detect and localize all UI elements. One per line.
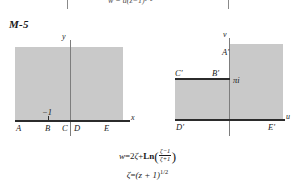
rule-tick-left — [67, 0, 68, 9]
w-plane-point-B-prime: B′ — [212, 69, 219, 78]
z-plane-minus-one-label: −1 — [42, 107, 52, 117]
w-plane-point-D-prime: D′ — [176, 123, 184, 132]
mapping-formulas: w=2ζ+Ln(ζ−1ζ+1) ζ=(z + 1)1/2 — [0, 148, 295, 182]
z-plane-y-axis-label: y — [62, 33, 66, 41]
conformal-mapping-figure: w = a(z−1)¹ᐟ² M-5 y x −1 A B C D E v u — [0, 0, 295, 182]
w-plane-slit-boundary — [175, 78, 230, 80]
w-plane-u-axis-label: u — [286, 113, 290, 121]
z-plane-point-C: C — [62, 124, 68, 133]
z-plane-point-B: B — [45, 124, 50, 133]
w-plane-lower-boundary — [175, 119, 285, 121]
plate-label: M-5 — [9, 18, 29, 30]
z-plane-point-A: A — [16, 124, 21, 133]
w-plane-shaded-upper-block — [230, 44, 283, 79]
w-plane-point-E-prime: E′ — [268, 123, 275, 132]
formula1-fraction: ζ−1ζ+1 — [159, 148, 171, 163]
formula2-exponent: 1/2 — [160, 168, 168, 175]
previous-plate-formula: w = a(z−1)¹ᐟ² — [108, 0, 152, 5]
rule-tick-right — [228, 0, 229, 9]
formula1-ln: Ln — [143, 151, 154, 161]
z-plane-point-E: E — [104, 124, 109, 133]
z-plane-x-axis-label: x — [131, 114, 135, 122]
z-plane-x-axis-boundary — [15, 120, 130, 122]
w-plane-point-C-prime: C′ — [175, 69, 183, 78]
z-plane-point-D: D — [74, 124, 80, 133]
z-plane-y-axis — [70, 40, 71, 136]
z-plane-minus-one-tick — [48, 116, 49, 121]
formula1-fraction-denominator: ζ+1 — [159, 156, 171, 163]
w-plane-point-A-prime: A′ — [222, 48, 229, 57]
w-plane-v-axis — [229, 38, 230, 136]
w-plane-pi-i-label: πi — [233, 76, 240, 85]
z-plane-shaded-region — [15, 47, 123, 121]
formula1-paren-open: ( — [154, 149, 158, 164]
mapping-formula-line-2: ζ=(z + 1)1/2 — [0, 167, 295, 182]
mapping-formula-line-1: w=2ζ+Ln(ζ−1ζ+1) — [0, 148, 295, 167]
formula2-rhs: (z + 1) — [135, 170, 160, 180]
formula1-paren-close: ) — [172, 149, 176, 164]
previous-plate-formula-clip: w = a(z−1)¹ᐟ² — [0, 0, 295, 14]
w-plane-v-axis-label: v — [223, 31, 227, 39]
